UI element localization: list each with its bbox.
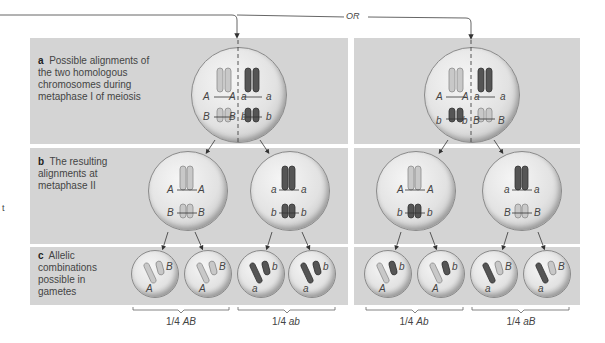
- left-gamete-3: [237, 250, 285, 298]
- outcome-left-1: 1/4 AB: [143, 316, 219, 327]
- outcome-genotype: Ab: [416, 316, 428, 327]
- right-metaphase2-cell-1: [376, 151, 456, 231]
- outcome-right-1: 1/4 Ab: [376, 316, 452, 327]
- outcome-genotype: AB: [183, 316, 196, 327]
- row-b-text: The resulting alignments at metaphase II: [38, 156, 107, 191]
- right-metaphase1-cell: [424, 47, 520, 143]
- right-gamete-3: [470, 250, 518, 298]
- left-metaphase2-cell-1: [148, 151, 228, 231]
- row-a-text: Possible alignments of the two homologou…: [38, 55, 149, 102]
- outcome-right-2: 1/4 aB: [483, 316, 559, 327]
- outcome-fraction: 1/4: [400, 316, 414, 327]
- row-b-letter: b: [38, 156, 44, 167]
- or-label: OR: [344, 11, 362, 21]
- row-c-letter: c: [38, 250, 44, 261]
- outcome-fraction: 1/4: [507, 316, 521, 327]
- top-connector-line: [0, 15, 471, 37]
- right-gamete-1: [364, 250, 412, 298]
- row-c-text: Allelic combinations possible in gametes: [38, 250, 97, 297]
- row-a-label: a Possible alignments of the two homolog…: [38, 55, 156, 103]
- edge-text-fragment: t: [2, 203, 5, 213]
- outcome-fraction: 1/4: [272, 316, 286, 327]
- outcome-genotype: ab: [289, 316, 300, 327]
- outcome-genotype: aB: [523, 316, 535, 327]
- right-metaphase2-cell-2: [482, 151, 562, 231]
- left-gamete-1: [131, 250, 179, 298]
- row-b-label: b The resulting alignments at metaphase …: [38, 156, 118, 192]
- left-metaphase1-cell: [191, 47, 287, 143]
- left-gamete-4: [288, 250, 336, 298]
- right-gamete-4: [523, 250, 571, 298]
- left-gamete-2: [184, 250, 232, 298]
- row-a-letter: a: [38, 55, 44, 66]
- left-metaphase2-cell-2: [250, 151, 330, 231]
- outcome-fraction: 1/4: [166, 316, 180, 327]
- right-gamete-2: [417, 250, 465, 298]
- row-c-label: c Allelic combinations possible in gamet…: [38, 250, 118, 298]
- outcome-left-2: 1/4 ab: [248, 316, 324, 327]
